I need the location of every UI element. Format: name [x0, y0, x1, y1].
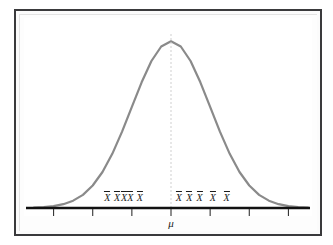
plot-canvas: XXXXXXXXXX μ — [24, 18, 312, 216]
sample-mean-marker: X — [176, 191, 182, 203]
sample-mean-glyph: X — [121, 193, 127, 203]
sample-mean-glyph: X — [104, 193, 110, 203]
sample-mean-marker: X — [114, 191, 120, 203]
sample-mean-glyph: X — [210, 193, 216, 203]
sample-mean-marker: X — [127, 191, 133, 203]
sample-mean-glyph: X — [176, 193, 182, 203]
sample-mean-glyph: X — [224, 193, 230, 203]
sample-mean-glyph: X — [186, 193, 192, 203]
figure-frame: XXXXXXXXXX μ — [14, 9, 322, 236]
figure-mat: XXXXXXXXXX μ — [19, 14, 317, 231]
sample-mean-glyph: X — [127, 193, 133, 203]
sample-mean-marker: X — [186, 191, 192, 203]
distribution-plot-svg — [24, 18, 312, 216]
sample-mean-marker: X — [224, 191, 230, 203]
sample-mean-glyph: X — [197, 193, 203, 203]
sample-mean-marker: X — [104, 191, 110, 203]
sample-mean-glyph: X — [114, 193, 120, 203]
mean-symbol-label: μ — [168, 217, 174, 229]
figure-root: XXXXXXXXXX μ — [0, 0, 333, 245]
sample-mean-marker: X — [121, 191, 127, 203]
sample-mean-marker: X — [210, 191, 216, 203]
sample-mean-marker: X — [197, 191, 203, 203]
sample-mean-marker: X — [137, 191, 143, 203]
sample-mean-glyph: X — [137, 193, 143, 203]
x-axis-ticks — [54, 209, 289, 216]
